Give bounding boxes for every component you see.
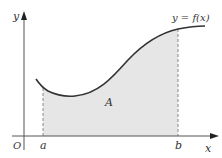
- a-label: a: [40, 139, 47, 152]
- x-axis-label: x: [205, 142, 212, 155]
- x-axis-arrow-icon: [210, 133, 219, 139]
- area-label: A: [104, 96, 113, 109]
- origin-label: O: [13, 140, 21, 151]
- area-under-curve-diagram: y x O a b A y = f(x): [0, 0, 222, 158]
- shaded-area-region: [43, 29, 178, 136]
- b-label: b: [175, 139, 182, 152]
- curve-label: y = f(x): [171, 12, 210, 23]
- y-axis-arrow-icon: [21, 11, 27, 20]
- y-axis-label: y: [12, 10, 20, 23]
